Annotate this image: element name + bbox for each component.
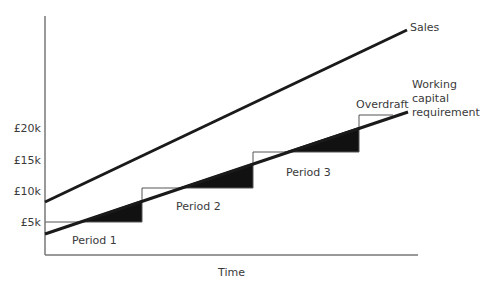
x-axis-label: Time: [217, 266, 245, 279]
sales-label: Sales: [410, 21, 440, 34]
wcr-label-line2: capital: [412, 92, 449, 105]
y-tick-10k: £10k: [14, 185, 42, 198]
chart-canvas: £20k £15k £10k £5k Period 1 Period 2 Per…: [0, 0, 485, 292]
y-tick-15k: £15k: [14, 154, 42, 167]
wcr-label-line1: Working: [412, 78, 457, 91]
working-capital-line: [45, 112, 408, 234]
overdraft-label: Overdraft: [356, 98, 409, 111]
y-tick-20k: £20k: [14, 122, 42, 135]
period-3-label: Period 3: [286, 166, 331, 179]
period-1-label: Period 1: [72, 234, 117, 247]
wcr-label-line3: requirement: [412, 106, 481, 119]
period-2-label: Period 2: [176, 200, 221, 213]
y-tick-5k: £5k: [21, 216, 42, 229]
